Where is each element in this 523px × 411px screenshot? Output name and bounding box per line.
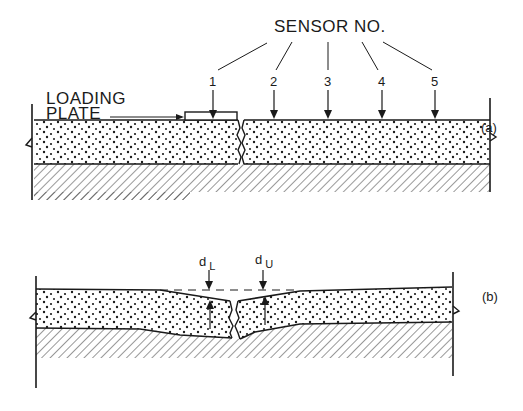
sensor-5-label: 5	[431, 74, 438, 89]
dl-label: dL	[199, 254, 215, 272]
slab-right-a	[242, 120, 490, 164]
joint-load-transfer-diagram: LOADING PLATE SENSOR NO. 1 2 3	[0, 0, 523, 411]
arrow-down-icon	[259, 281, 267, 290]
du-label: dU	[255, 252, 273, 270]
break-symbol-right-b	[453, 306, 459, 314]
panel-b: dL dU (b)	[30, 252, 498, 388]
panel-b-label: (b)	[482, 289, 498, 304]
subgrade-a-right	[190, 164, 490, 192]
break-symbol-left-a	[26, 138, 32, 147]
sensor-heading: SENSOR NO.	[274, 17, 386, 36]
sensor-2-label: 2	[270, 74, 277, 89]
break-symbol-left-b	[30, 312, 36, 320]
sensor-1: 1	[209, 74, 217, 119]
arrow-down-icon	[324, 110, 332, 119]
arrow-down-icon	[431, 110, 439, 119]
panel-a: LOADING PLATE SENSOR NO. 1 2 3	[26, 17, 497, 200]
panel-a-label: (a)	[481, 120, 497, 135]
sensor-3: 3	[324, 74, 332, 119]
sensor-2: 2	[270, 74, 278, 119]
sensor-3-label: 3	[324, 74, 331, 89]
sensor-leader-lines	[218, 42, 432, 70]
sensor-1-label: 1	[209, 74, 216, 89]
arrow-down-icon	[205, 281, 213, 290]
loading-plate-label-line2: PLATE	[46, 104, 101, 123]
sensor-4: 4	[378, 74, 386, 119]
sensor-4-label: 4	[378, 74, 385, 89]
arrow-down-icon	[378, 110, 386, 119]
sensor-5: 5	[431, 74, 439, 119]
slab-left-a	[34, 120, 241, 164]
arrow-down-icon	[270, 110, 278, 119]
